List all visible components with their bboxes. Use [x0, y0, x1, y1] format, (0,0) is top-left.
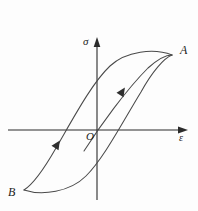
upper-branch-curve: [24, 51, 172, 190]
point-b-label: B: [8, 186, 15, 198]
point-a-label: A: [180, 44, 187, 56]
y-axis-arrowhead: [94, 37, 101, 47]
lower-branch-curve: [24, 55, 172, 193]
y-axis-label: σ: [83, 36, 88, 47]
stress-strain-hysteresis-figure: σ ε O A B: [0, 0, 198, 211]
hysteresis-loop-svg: [0, 0, 198, 211]
x-axis-label: ε: [179, 133, 183, 143]
origin-label: O: [86, 131, 94, 142]
flow-direction-arrow-lower: [51, 138, 63, 150]
